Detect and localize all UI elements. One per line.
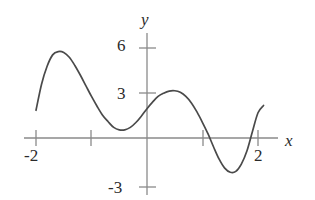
y-tick-label-6: 6 <box>117 37 126 54</box>
x-tick-label-2: 2 <box>254 147 263 164</box>
function-curve <box>36 51 264 172</box>
y-tick-label-3: 3 <box>117 85 126 102</box>
axes-group <box>24 33 278 195</box>
x-axis-label: x <box>285 132 293 149</box>
plot-canvas <box>0 0 315 200</box>
x-tick-label-minus2: -2 <box>24 147 38 164</box>
y-tick-label-minus3: -3 <box>108 179 122 196</box>
graph-figure: 6 3 -3 -2 2 y x <box>0 0 315 200</box>
y-axis-label: y <box>141 11 149 28</box>
